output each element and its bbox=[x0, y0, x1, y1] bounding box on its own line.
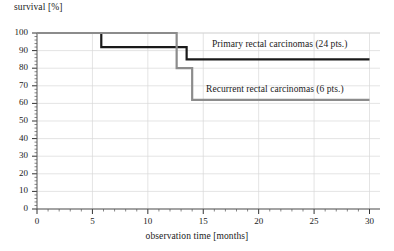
x-tick-label: 25 bbox=[302, 216, 326, 226]
x-tick-label: 15 bbox=[191, 216, 215, 226]
y-tick-label: 20 bbox=[4, 168, 28, 178]
y-tick-label: 100 bbox=[4, 27, 28, 37]
x-tick-label: 5 bbox=[80, 216, 104, 226]
x-tick-label: 0 bbox=[25, 216, 49, 226]
chart-plot-area bbox=[0, 0, 394, 251]
series-label-primary: Primary rectal carcinomas (24 pts.) bbox=[212, 39, 348, 49]
y-tick-label: 50 bbox=[4, 115, 28, 125]
x-tick-label: 20 bbox=[247, 216, 271, 226]
series-label-recurrent: Recurrent rectal carcinomas (6 pts.) bbox=[206, 84, 344, 94]
y-tick-label: 40 bbox=[4, 133, 28, 143]
x-tick-label: 30 bbox=[358, 216, 382, 226]
y-tick-label: 80 bbox=[4, 62, 28, 72]
y-tick-label: 30 bbox=[4, 150, 28, 160]
x-tick-label: 10 bbox=[136, 216, 160, 226]
y-tick-label: 70 bbox=[4, 80, 28, 90]
chart-root: survival [%] 0102030405060708090100 0510… bbox=[0, 0, 394, 251]
y-tick-label: 90 bbox=[4, 45, 28, 55]
x-axis-title: observation time [months] bbox=[0, 231, 394, 241]
y-tick-label: 0 bbox=[4, 203, 28, 213]
y-tick-label: 10 bbox=[4, 185, 28, 195]
y-tick-label: 60 bbox=[4, 97, 28, 107]
